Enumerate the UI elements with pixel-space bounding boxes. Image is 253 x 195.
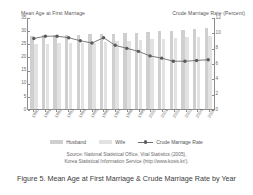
line-marker: [160, 57, 163, 60]
line-marker: [125, 47, 128, 50]
right-tick-label: 4: [216, 77, 219, 82]
x-axis-labels: 1990199119921993199419951996199719981999…: [27, 110, 215, 134]
left-tick-label: 20: [21, 55, 26, 60]
line-marker: [148, 54, 151, 57]
figure-caption: Figure 5. Mean Age at First Marriage & C…: [0, 174, 253, 183]
x-axis-label-cell: 2002: [168, 110, 180, 134]
legend-item-husband: Husband: [50, 139, 86, 145]
right-axis-title: Crude Marriage Rate (Percent): [172, 10, 245, 16]
plot-area: 05101520253035 024681012: [27, 18, 215, 110]
right-tick-label: 10: [216, 31, 221, 36]
left-tick-label: 15: [21, 68, 26, 73]
line-marker: [183, 60, 186, 63]
legend-swatch-husband: [50, 140, 63, 145]
x-axis-label-cell: 1990: [27, 110, 39, 134]
line-marker: [114, 44, 117, 47]
legend-label-husband: Husband: [66, 139, 86, 145]
left-tick-label: 10: [21, 81, 26, 86]
x-axis-label-cell: 1995: [86, 110, 98, 134]
x-axis-label-cell: 2003: [180, 110, 192, 134]
crude-marriage-rate-line: [28, 18, 214, 109]
right-tick-label: 6: [216, 62, 219, 67]
legend-swatch-line-icon: [138, 140, 153, 145]
line-marker: [195, 59, 198, 62]
line-marker: [102, 36, 105, 39]
x-axis-label-cell: 1992: [51, 110, 63, 134]
left-axis-title: Mean Age at First Marriage: [21, 10, 85, 16]
figure-container: Mean Age at First Marriage Crude Marriag…: [0, 0, 253, 195]
x-axis-label-cell: 2005: [203, 110, 215, 134]
x-axis-label-cell: 1998: [121, 110, 133, 134]
left-tick-label: 30: [21, 29, 26, 34]
x-axis-label-cell: 1991: [39, 110, 51, 134]
line-marker: [79, 39, 82, 42]
x-axis-label-cell: 1997: [109, 110, 121, 134]
right-tick-label: 12: [216, 16, 221, 21]
legend-label-wife: Wife: [115, 139, 125, 145]
x-axis-label-cell: 2004: [192, 110, 204, 134]
chart-legend: Husband Wife Crude Marriage Rate: [0, 136, 253, 148]
plot-area-wrapper: 05101520253035 024681012 199019911992199…: [0, 18, 253, 114]
line-marker: [44, 35, 47, 38]
x-axis-label-cell: 2000: [145, 110, 157, 134]
left-tick-label: 35: [21, 16, 26, 21]
x-axis-label-cell: 1994: [74, 110, 86, 134]
legend-swatch-wife: [99, 140, 112, 145]
legend-item-wife: Wife: [99, 139, 125, 145]
right-tick-label: 8: [216, 46, 219, 51]
source-line-2: Korea Statistical Information Service (h…: [0, 158, 253, 165]
x-axis-label-cell: 1993: [62, 110, 74, 134]
left-tick-label: 25: [21, 42, 26, 47]
line-path: [34, 36, 208, 61]
line-marker: [137, 50, 140, 53]
right-tick-label: 2: [216, 92, 219, 97]
right-tick-label: 0: [216, 108, 219, 113]
source-line-1: Source: National Statistical Office, Vit…: [0, 151, 253, 158]
line-marker: [172, 60, 175, 63]
line-marker: [67, 36, 70, 39]
legend-label-crude-marriage-rate: Crude Marriage Rate: [156, 139, 203, 145]
x-tick-label: 2005: [207, 108, 216, 119]
x-axis-label-cell: 1996: [98, 110, 110, 134]
line-marker: [32, 37, 35, 40]
legend-item-crude-marriage-rate: Crude Marriage Rate: [138, 139, 203, 145]
x-axis-label-cell: 2001: [156, 110, 168, 134]
left-tick-label: 5: [24, 95, 27, 100]
line-marker: [207, 58, 210, 61]
source-note: Source: National Statistical Office, Vit…: [0, 151, 253, 166]
line-marker: [55, 35, 58, 38]
line-marker: [90, 41, 93, 44]
x-axis-label-cell: 1999: [133, 110, 145, 134]
